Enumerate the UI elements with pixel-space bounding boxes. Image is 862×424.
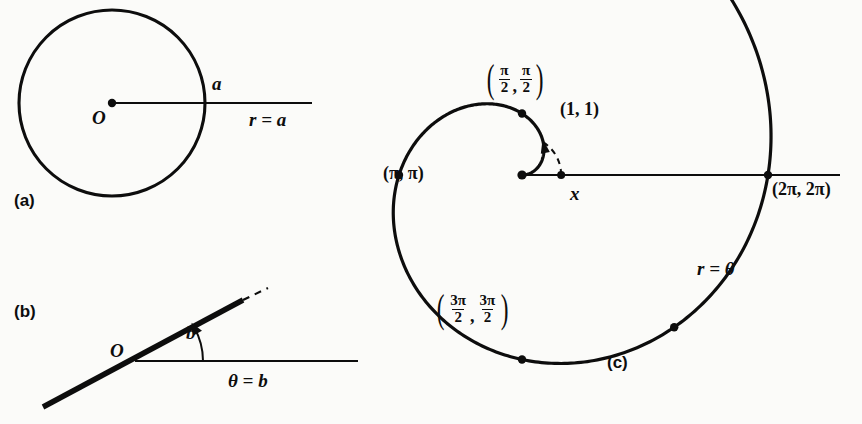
panel-c-tag: (c) [607, 354, 628, 371]
panel-b-graphic [43, 288, 358, 407]
comma: , [512, 77, 520, 95]
point-dot-half-pi [518, 109, 526, 117]
point-dot-three-half-pi [518, 355, 526, 363]
panel-a-origin-label: O [92, 108, 106, 127]
panel-c-equation-label: r = θ [697, 259, 735, 278]
panel-a-radius-label: a [212, 74, 222, 93]
paren-open: ( [437, 292, 445, 326]
fraction-first: π 2 [497, 63, 511, 96]
theta-line-dashed-extension [243, 288, 268, 300]
point-dot-x-axis [557, 171, 565, 179]
figure-canvas [0, 0, 862, 424]
point-dot-origin [517, 170, 526, 179]
panel-b-equation-label: θ = b [228, 371, 268, 390]
panel-a-graphic [19, 10, 312, 196]
panel-a-equation-label: r = a [249, 110, 286, 129]
point-label-half-pi: ( π 2 , π 2 ) [484, 62, 547, 96]
fraction-second: 3π 2 [477, 293, 499, 326]
point-label-pi-pi: (π, π) [383, 164, 424, 182]
point-dot-two-pi [764, 171, 772, 179]
panel-b-angle-label: b [186, 323, 196, 342]
point-label-three-half-pi: ( 3π 2 , 3π 2 ) [434, 292, 512, 326]
point-label-one-one: (1, 1) [560, 100, 599, 118]
fraction-first: 3π 2 [447, 293, 469, 326]
panel-a-tag: (a) [14, 192, 35, 209]
paren-close: ) [536, 62, 544, 96]
point-dot-five-quarter-turn [670, 323, 678, 331]
origin-dot [108, 99, 116, 107]
point-label-two-pi: (2π, 2π) [772, 180, 831, 198]
panel-b-origin-label: O [110, 341, 124, 360]
polar-graphs-figure: (a) O a r = a (b) O b θ = b (c) ( π 2 , … [0, 0, 862, 424]
comma: , [469, 307, 477, 325]
paren-open: ( [487, 62, 495, 96]
fraction-second: π 2 [519, 63, 533, 96]
theta-line [43, 300, 243, 407]
panel-b-tag: (b) [14, 303, 36, 320]
panel-c-x-axis-label: x [570, 184, 580, 203]
paren-close: ) [501, 292, 509, 326]
